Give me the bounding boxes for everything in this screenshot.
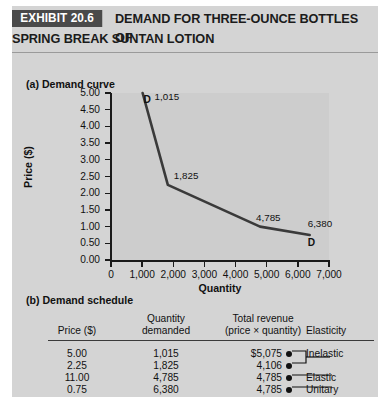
table-cell-quantity: 1,825 <box>128 360 204 371</box>
revenue-marker-dot <box>286 363 292 369</box>
demand-curve-chart: 0.000.501.001.502.002.503.003.504.004.50… <box>12 86 378 291</box>
demand-schedule-table: Price ($) Quantity demanded Total revenu… <box>40 309 374 397</box>
curve-point-label: 1,825 <box>174 170 199 181</box>
exhibit-header: EXHIBIT 20.6 DEMAND FOR THREE-OUNCE BOTT… <box>12 8 378 54</box>
table-cell-quantity: 4,785 <box>128 372 204 383</box>
curve-point-label: 4,785 <box>256 212 281 223</box>
revenue-marker-dot <box>286 387 292 393</box>
table-cell-elasticity: Inelastic <box>306 348 378 359</box>
table-cell-quantity: 6,380 <box>128 384 204 395</box>
exhibit-number-tag: EXHIBIT 20.6 <box>12 10 102 27</box>
curve-label-d-bottom: D <box>308 237 315 248</box>
table-cell-revenue: 4,785 <box>216 384 282 395</box>
table-cell-elasticity: Unitary <box>306 384 378 395</box>
exhibit-card: EXHIBIT 20.6 DEMAND FOR THREE-OUNCE BOTT… <box>12 6 378 397</box>
table-cell-revenue: $5,075 <box>216 348 282 359</box>
table-cell-quantity: 1,015 <box>128 348 204 359</box>
exhibit-title-line-2: SPRING BREAK SUNTAN LOTION <box>12 29 360 48</box>
panel-b-label: (b) Demand schedule <box>26 294 133 306</box>
table-cell-price: 2.25 <box>46 360 108 371</box>
demand-curve-line <box>12 86 378 291</box>
curve-label-d-top: D <box>144 94 151 105</box>
curve-point-label: 6,380 <box>308 218 333 229</box>
revenue-marker-dot <box>286 375 292 381</box>
table-cell-elasticity: Elastic <box>306 372 378 383</box>
curve-point-label: 1,015 <box>155 91 180 102</box>
table-cell-price: 5.00 <box>46 348 108 359</box>
table-cell-revenue: 4,785 <box>216 372 282 383</box>
table-cell-price: 0.75 <box>46 384 108 395</box>
table-cell-price: 11.00 <box>46 372 108 383</box>
revenue-marker-dot <box>286 351 292 357</box>
table-cell-revenue: 4,106 <box>216 360 282 371</box>
header-divider <box>12 52 378 53</box>
